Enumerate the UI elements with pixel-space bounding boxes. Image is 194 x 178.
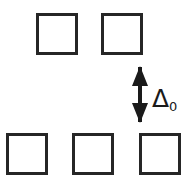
gap-label-symbol: Δ	[152, 84, 169, 113]
gap-arrow-group	[132, 66, 148, 123]
gap-arrow-head-down	[132, 103, 148, 123]
gap-label: Δ0	[152, 86, 177, 113]
square-upper-2	[101, 13, 143, 55]
figure-canvas: Δ0	[0, 0, 194, 178]
square-upper-1	[36, 13, 78, 55]
gap-arrow-head-up	[132, 66, 148, 86]
square-lower-2	[72, 133, 114, 175]
square-lower-1	[6, 133, 48, 175]
gap-label-subscript: 0	[169, 99, 177, 114]
square-lower-3	[139, 133, 181, 175]
